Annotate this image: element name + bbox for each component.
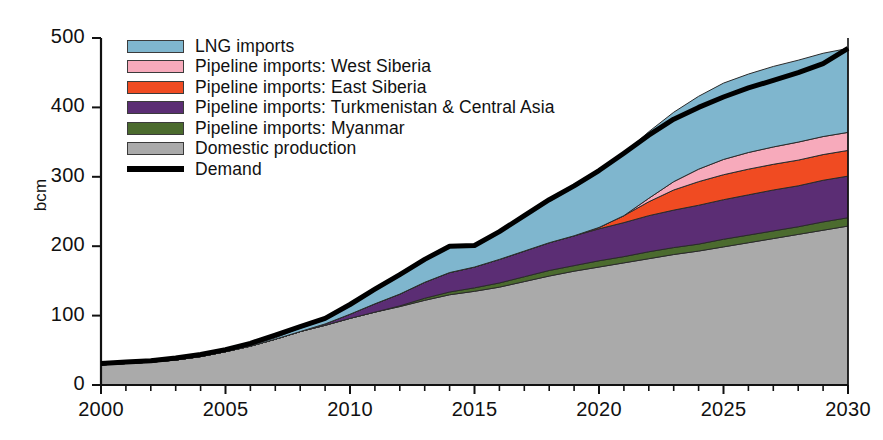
legend-swatch-icon xyxy=(127,101,184,114)
y-tick-label: 200 xyxy=(13,233,85,256)
legend-label: Pipeline imports: East Siberia xyxy=(195,77,427,98)
legend-label: Pipeline imports: West Siberia xyxy=(195,56,431,77)
x-tick-label: 2010 xyxy=(310,398,390,421)
y-tick-label: 100 xyxy=(13,303,85,326)
legend-label: Demand xyxy=(195,159,262,180)
legend-swatch-icon xyxy=(127,142,184,155)
y-tick-label: 0 xyxy=(13,372,85,395)
legend-swatch-icon xyxy=(127,81,184,94)
x-tick-label: 2000 xyxy=(61,398,141,421)
x-tick-label: 2005 xyxy=(186,398,266,421)
y-tick-label: 500 xyxy=(13,25,85,48)
legend-swatch-icon xyxy=(127,60,184,73)
legend-swatch-icon xyxy=(127,122,184,135)
y-tick-label: 400 xyxy=(13,94,85,117)
x-tick-label: 2015 xyxy=(435,398,515,421)
x-tick-label: 2025 xyxy=(684,398,764,421)
chart-legend: LNG importsPipeline imports: West Siberi… xyxy=(127,36,555,180)
legend-item-lng-imports[interactable]: LNG imports xyxy=(127,36,555,57)
legend-label: Pipeline imports: Myanmar xyxy=(195,118,405,139)
legend-label: LNG imports xyxy=(195,36,294,57)
legend-item-demand[interactable]: Demand xyxy=(127,159,555,180)
x-tick-label: 2030 xyxy=(808,398,883,421)
legend-item-pipeline-imports-east-siberia[interactable]: Pipeline imports: East Siberia xyxy=(127,77,555,98)
legend-swatch-icon xyxy=(127,166,184,172)
legend-swatch-icon xyxy=(127,40,184,53)
legend-item-pipeline-imports-turkmenistan-central-asia[interactable]: Pipeline imports: Turkmenistan & Central… xyxy=(127,98,555,119)
chart-container: bcm 0100200300400500 2000200520102015202… xyxy=(0,0,883,440)
x-tick-label: 2020 xyxy=(559,398,639,421)
legend-label: Domestic production xyxy=(195,138,356,159)
legend-item-domestic-production[interactable]: Domestic production xyxy=(127,139,555,160)
legend-label: Pipeline imports: Turkmenistan & Central… xyxy=(195,97,555,118)
y-tick-label: 300 xyxy=(13,164,85,187)
legend-item-pipeline-imports-myanmar[interactable]: Pipeline imports: Myanmar xyxy=(127,118,555,139)
legend-item-pipeline-imports-west-siberia[interactable]: Pipeline imports: West Siberia xyxy=(127,57,555,78)
